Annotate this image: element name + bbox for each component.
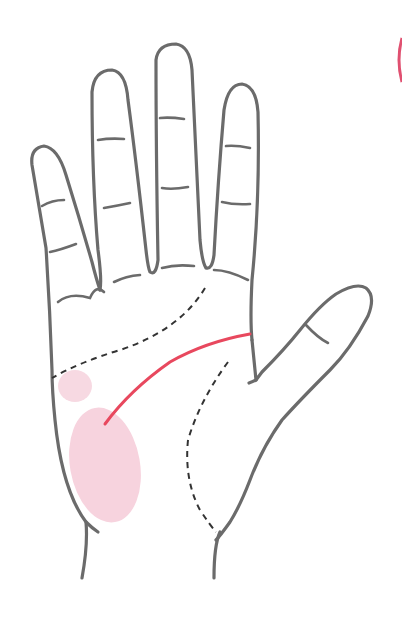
palm-illustration <box>0 0 402 625</box>
dashed-life-line <box>187 362 228 532</box>
dashed-head-line <box>52 288 205 378</box>
finger-creases <box>42 118 328 343</box>
small-mount <box>58 370 92 402</box>
large-mount <box>60 402 149 528</box>
